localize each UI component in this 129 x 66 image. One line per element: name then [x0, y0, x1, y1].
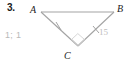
problem-figure-screenshot: 3. 1; 1 A B C 15 — [0, 0, 129, 66]
vertex-label-c: C — [64, 50, 71, 61]
right-angle-marker-top-icon — [72, 34, 85, 40]
vertex-label-b: B — [117, 3, 123, 14]
vertex-label-a: A — [30, 4, 36, 15]
side-length-label-cb: 15 — [99, 27, 108, 37]
